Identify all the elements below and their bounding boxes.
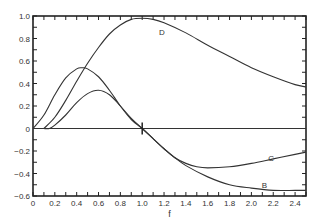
line-chart: 1.00.80.60.40.20−0.2−0.4−0.6 00.20.40.60… <box>0 0 326 219</box>
curve-labels: DCB <box>142 28 274 190</box>
x-tick-label: 2.2 <box>268 199 280 208</box>
x-axis-tick-labels: 00.20.40.60.81.01.21.41.61.82.02.22.4 <box>31 199 301 208</box>
x-tick-label: 0.2 <box>49 199 61 208</box>
curve-label-b: B <box>262 181 267 190</box>
y-tick-label: 0.2 <box>19 102 31 111</box>
x-tick-label: 0 <box>31 199 36 208</box>
y-tick-label: 1.0 <box>19 12 31 21</box>
data-curves <box>33 18 306 190</box>
x-tick-label: 0.6 <box>93 199 105 208</box>
x-tick-label: 1.6 <box>202 199 214 208</box>
y-tick-label: −0.6 <box>14 192 30 201</box>
x-tick-label: 1.0 <box>137 199 149 208</box>
x-tick-label: 2.0 <box>246 199 258 208</box>
x-tick-label: 1.4 <box>180 199 192 208</box>
curve-label-d: D <box>159 28 165 37</box>
y-tick-label: 0.8 <box>19 35 31 44</box>
x-tick-label: 0.4 <box>71 199 83 208</box>
x-tick-label: 2.4 <box>290 199 302 208</box>
y-tick-label: 0.6 <box>19 57 31 66</box>
curve-c <box>44 90 306 168</box>
curve-d <box>44 18 306 128</box>
x-tick-label: 1.8 <box>224 199 236 208</box>
x-axis-label: f <box>168 209 171 219</box>
y-axis-tick-labels: 1.00.80.60.40.20−0.2−0.4−0.6 <box>14 12 30 201</box>
y-tick-label: 0.4 <box>19 80 31 89</box>
y-tick-label: 0 <box>26 125 31 134</box>
x-tick-label: 1.2 <box>158 199 170 208</box>
y-tick-label: −0.4 <box>14 170 30 179</box>
x-tick-label: 0.8 <box>115 199 127 208</box>
curve-label-c: C <box>268 154 274 163</box>
y-tick-label: −0.2 <box>14 147 30 156</box>
